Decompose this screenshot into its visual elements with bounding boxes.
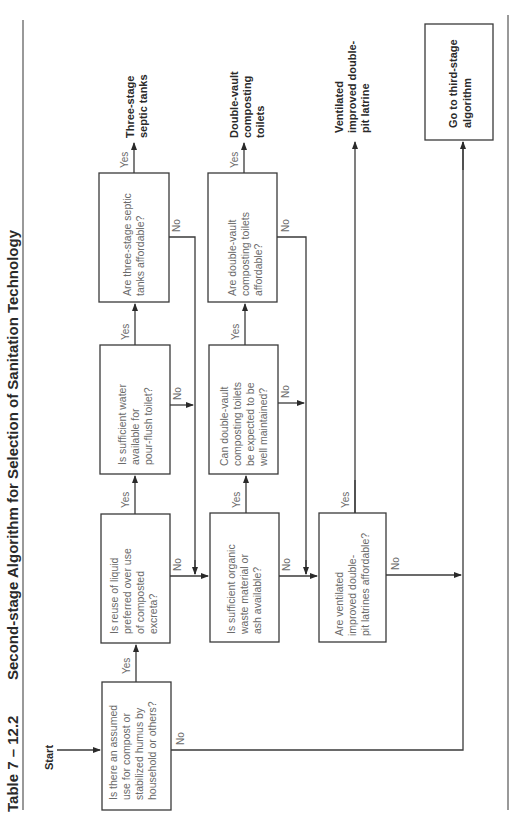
svg-text:well maintained?: well maintained?	[257, 388, 269, 467]
svg-text:Are ventilated: Are ventilated	[333, 572, 345, 636]
svg-text:composting toilets: composting toilets	[231, 382, 243, 466]
svg-text:tanks affordable?: tanks affordable?	[134, 215, 146, 296]
start-label: Start	[43, 745, 55, 770]
svg-text:improved double-: improved double-	[346, 554, 358, 636]
svg-text:No: No	[175, 732, 186, 745]
svg-text:No: No	[171, 219, 182, 232]
svg-text:Is sufficient organic: Is sufficient organic	[225, 544, 237, 634]
svg-text:composting toilets: composting toilets	[239, 212, 251, 296]
svg-text:Can double-vault: Can double-vault	[218, 387, 230, 466]
svg-text:Is sufficient water: Is sufficient water	[116, 384, 128, 465]
svg-text:No: No	[281, 558, 292, 571]
svg-text:toilets: toilets	[254, 106, 266, 138]
svg-text:No: No	[172, 387, 183, 400]
flowchart-canvas: Table 7 – 12.2 Second-stage Algorithm fo…	[0, 0, 524, 826]
svg-text:composting: composting	[241, 76, 253, 138]
outcome-third-stage: Go to third-stage algorithm	[425, 24, 493, 140]
svg-text:Three-stage: Three-stage	[124, 76, 136, 138]
svg-text:improved double-: improved double-	[346, 40, 358, 133]
outcome-double-vault-toilets: Double-vault composting toilets	[228, 71, 266, 138]
svg-text:use for compost or: use for compost or	[120, 713, 132, 800]
decision-dv-affordable: Are double-vault composting toilets affo…	[208, 173, 277, 302]
svg-text:Are three-stage septic: Are three-stage septic	[121, 193, 133, 296]
outcome-vip-latrine: Ventilated improved double- pit latrine	[333, 40, 371, 133]
svg-text:ash available?: ash available?	[251, 567, 263, 634]
svg-text:Yes: Yes	[120, 324, 131, 340]
svg-text:No: No	[390, 557, 401, 570]
svg-text:No: No	[280, 219, 291, 232]
svg-text:household or others?: household or others?	[146, 701, 158, 800]
svg-text:algorithm: algorithm	[461, 78, 473, 128]
no-edges-connector-1: No No No	[169, 219, 208, 576]
svg-text:Yes: Yes	[231, 492, 242, 508]
svg-text:Yes: Yes	[230, 324, 241, 340]
decision-sufficient-water: Is sufficient water available for pour-f…	[100, 345, 170, 474]
svg-text:affordable?: affordable?	[252, 243, 264, 296]
svg-text:available for: available for	[129, 408, 141, 465]
svg-text:No: No	[280, 385, 291, 398]
page-title: Second-stage Algorithm for Selection of …	[4, 229, 21, 680]
svg-text:stabilized humus by: stabilized humus by	[133, 707, 145, 800]
svg-text:preferred over use: preferred over use	[121, 548, 133, 634]
decision-vip-affordable: Are ventilated improved double- pit latr…	[319, 513, 386, 642]
svg-text:Ventilated: Ventilated	[333, 81, 345, 133]
svg-text:No: No	[172, 558, 183, 571]
svg-text:Double-vault: Double-vault	[228, 71, 240, 138]
svg-text:excreta?: excreta?	[147, 594, 159, 634]
decision-septic-affordable: Are three-stage septic tanks affordable?	[99, 173, 169, 302]
svg-text:Go to third-stage: Go to third-stage	[447, 39, 459, 128]
svg-text:pit latrine: pit latrine	[359, 83, 371, 133]
decision-reuse-liquid: Is reuse of liquid preferred over use of…	[101, 514, 170, 643]
svg-text:Yes: Yes	[120, 492, 131, 508]
svg-text:pit latrines affordable?: pit latrines affordable?	[359, 533, 371, 636]
no-edges-connector-2: No No No	[277, 219, 317, 576]
svg-text:Yes: Yes	[340, 492, 351, 508]
svg-text:Is there an assumed: Is there an assumed	[107, 705, 119, 800]
outcome-septic-tanks: Three-stage septic tanks	[124, 74, 149, 138]
svg-text:septic tanks: septic tanks	[137, 74, 149, 138]
svg-text:pour-flush toilet?: pour-flush toilet?	[142, 387, 154, 465]
decision-assumed-use: Is there an assumed use for compost or s…	[102, 682, 171, 810]
svg-text:Yes: Yes	[229, 152, 240, 168]
decision-organic-waste: Is sufficient organic waste material or …	[210, 513, 279, 642]
svg-text:Yes: Yes	[119, 152, 130, 168]
svg-text:Are double-vault: Are double-vault	[226, 219, 238, 296]
svg-text:of composted: of composted	[134, 571, 146, 634]
table-number: Table 7 – 12.2	[4, 716, 21, 812]
svg-text:Yes: Yes	[121, 658, 132, 674]
svg-text:waste material or: waste material or	[238, 554, 250, 635]
svg-text:Is reuse of liquid: Is reuse of liquid	[108, 557, 120, 634]
yes-edge-vip: Yes	[340, 142, 355, 513]
decision-dv-maintained: Can double-vault composting toilets be e…	[209, 345, 278, 474]
svg-text:be expected to be: be expected to be	[244, 382, 256, 466]
